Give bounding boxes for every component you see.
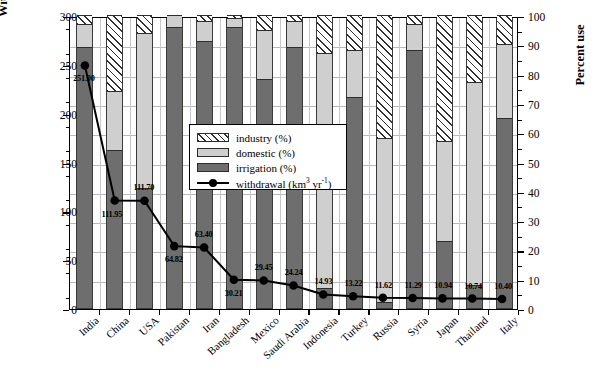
- withdrawal-marker[interactable]: [81, 61, 90, 70]
- tick-minor-left: [66, 151, 70, 152]
- legend-item-withdrawal[interactable]: withdrawal (km3 yr-1): [197, 175, 346, 190]
- tick-label-right: 100: [528, 11, 568, 23]
- withdrawal-marker[interactable]: [319, 290, 328, 299]
- tick-x: [159, 310, 160, 315]
- tick-x: [249, 310, 250, 315]
- y-axis-left-title-text: Withdrawal rate (km: [0, 0, 10, 17]
- tick-label-right: 70: [528, 99, 568, 111]
- tick-x: [99, 310, 100, 315]
- withdrawal-marker[interactable]: [170, 242, 179, 251]
- y-axis-right-title: Percent use: [573, 0, 588, 120]
- withdrawal-marker[interactable]: [140, 196, 149, 205]
- point-label-turkey: 13.22: [345, 279, 363, 288]
- tick-minor-right: [518, 266, 522, 267]
- tick-label-left: 50: [37, 255, 77, 267]
- tick-right: [518, 105, 524, 106]
- tick-minor-left: [66, 176, 70, 177]
- legend-item-irrigation[interactable]: irrigation (%): [197, 160, 346, 175]
- point-label-japan: 10.94: [434, 281, 452, 290]
- withdrawal-marker[interactable]: [110, 196, 119, 205]
- withdrawal-marker[interactable]: [468, 294, 477, 303]
- tick-label-right: 10: [528, 275, 568, 287]
- tick-label-right: 50: [528, 158, 568, 170]
- withdrawal-marker[interactable]: [349, 292, 358, 301]
- point-label-syria: 11.29: [405, 281, 422, 290]
- tick-minor-right: [518, 295, 522, 296]
- tick-label-left: 0: [37, 304, 77, 316]
- legend-label: domestic (%): [236, 147, 295, 159]
- chart-figure: Withdrawal rate (km3 yr-1) Percent use 0…: [0, 0, 599, 375]
- legend-swatch-icon: [197, 133, 229, 142]
- tick-minor-right: [518, 237, 522, 238]
- point-label-china: 111.95: [102, 210, 123, 219]
- tick-minor-left: [66, 225, 70, 226]
- tick-label-left: 300: [37, 11, 77, 23]
- tick-label-left: 250: [37, 60, 77, 72]
- withdrawal-marker[interactable]: [408, 294, 417, 303]
- tick-x: [219, 310, 220, 315]
- tick-x: [488, 310, 489, 315]
- tick-right: [518, 222, 524, 223]
- tick-minor-left: [66, 298, 70, 299]
- tick-right: [518, 76, 524, 77]
- tick-x: [368, 310, 369, 315]
- tick-label-right: 60: [528, 128, 568, 140]
- withdrawal-marker[interactable]: [230, 275, 239, 284]
- tick-label-right: 30: [528, 216, 568, 228]
- tick-label-right: 20: [528, 245, 568, 257]
- point-label-thailand: 10.74: [464, 282, 482, 291]
- withdrawal-marker[interactable]: [200, 243, 209, 252]
- y-axis-left-title: Withdrawal rate (km3 yr-1): [0, 0, 11, 55]
- legend-line-marker-icon: [197, 178, 229, 187]
- tick-minor-right: [518, 61, 522, 62]
- tick-right: [518, 193, 524, 194]
- tick-x: [338, 310, 339, 315]
- point-label-india: 251.00: [73, 74, 95, 83]
- tick-right: [518, 46, 524, 47]
- tick-x: [458, 310, 459, 315]
- tick-minor-left: [66, 127, 70, 128]
- tick-label-right: 0: [528, 304, 568, 316]
- tick-minor-left: [66, 102, 70, 103]
- tick-minor-right: [518, 90, 522, 91]
- tick-minor-right: [518, 32, 522, 33]
- point-label-saudi-arabia: 24.24: [285, 268, 303, 277]
- tick-x: [129, 310, 130, 315]
- tick-minor-left: [66, 54, 70, 55]
- tick-minor-left: [66, 29, 70, 30]
- withdrawal-marker[interactable]: [438, 294, 447, 303]
- legend-item-industry[interactable]: industry (%): [197, 130, 346, 145]
- tick-minor-left: [66, 200, 70, 201]
- legend-swatch-icon: [197, 163, 229, 172]
- tick-label-left: 200: [37, 109, 77, 121]
- point-label-bangladesh: 30.21: [225, 289, 243, 298]
- tick-minor-left: [66, 78, 70, 79]
- tick-minor-left: [66, 273, 70, 274]
- tick-x: [398, 310, 399, 315]
- tick-minor-left: [66, 249, 70, 250]
- legend-item-domestic[interactable]: domestic (%): [197, 145, 346, 160]
- tick-label-left: 100: [37, 206, 77, 218]
- tick-right: [518, 134, 524, 135]
- point-label-iran: 63.40: [195, 230, 213, 239]
- tick-right: [518, 164, 524, 165]
- withdrawal-marker[interactable]: [498, 295, 507, 304]
- tick-label-right: 90: [528, 40, 568, 52]
- withdrawal-marker[interactable]: [379, 293, 388, 302]
- tick-label-right: 80: [528, 70, 568, 82]
- point-label-usa: 111.70: [133, 183, 154, 192]
- tick-minor-right: [518, 207, 522, 208]
- point-label-mexico: 29.45: [255, 263, 273, 272]
- legend-label: withdrawal (km3 yr-1): [236, 176, 332, 190]
- point-label-indonesia: 14.93: [315, 277, 333, 286]
- withdrawal-marker[interactable]: [259, 276, 268, 285]
- legend-label: industry (%): [236, 132, 291, 144]
- point-label-russia: 11.62: [375, 281, 392, 290]
- tick-right: [518, 17, 524, 18]
- tick-x: [279, 310, 280, 315]
- withdrawal-marker[interactable]: [289, 281, 298, 290]
- point-label-pakistan: 64.82: [165, 255, 183, 264]
- tick-x: [518, 310, 519, 315]
- tick-right: [518, 251, 524, 252]
- tick-x: [308, 310, 309, 315]
